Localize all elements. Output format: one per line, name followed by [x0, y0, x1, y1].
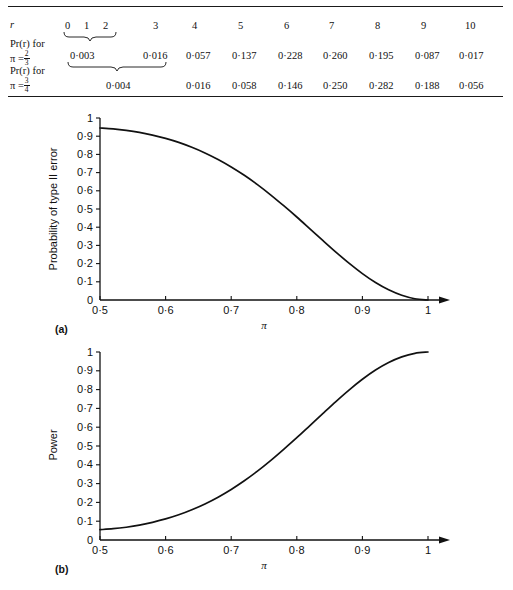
x-axis-arrow-icon — [439, 296, 450, 303]
x-tick-label-3: 0·8 — [289, 544, 305, 556]
y-tick-label-7: 0·7 — [77, 166, 93, 178]
x-tick-label-0: 0·5 — [92, 544, 108, 556]
y-tick-label-2: 0·2 — [77, 496, 93, 508]
table-braces — [0, 0, 513, 100]
y-tick-label-8: 0·8 — [77, 383, 93, 395]
underbrace-0-2 — [64, 32, 116, 41]
y-tick-label-9: 0·9 — [77, 130, 93, 142]
y-tick-label-2: 0·2 — [77, 257, 93, 269]
x-tick-label-3: 0·8 — [289, 304, 305, 316]
y-tick-label-10: 1 — [87, 346, 93, 358]
x-axis-title: π — [261, 559, 267, 571]
y-tick-label-8: 0·8 — [77, 148, 93, 160]
data-curve — [100, 352, 428, 530]
x-tick-label-5: 1 — [425, 544, 431, 556]
x-tick-label-4: 0·9 — [354, 304, 370, 316]
panel-label-a: (a) — [55, 323, 68, 335]
x-tick-label-1: 0·6 — [158, 304, 174, 316]
y-axis-title: Power — [47, 429, 59, 461]
y-tick-label-4: 0·4 — [77, 221, 93, 233]
x-tick-label-0: 0·5 — [92, 304, 108, 316]
x-tick-label-2: 0·7 — [223, 544, 239, 556]
x-axis-title: π — [261, 319, 267, 331]
chart-panel-b: 00·10·20·30·40·50·60·70·80·910·50·60·70·… — [0, 345, 513, 590]
x-tick-label-2: 0·7 — [223, 304, 239, 316]
chart-b-svg: 00·10·20·30·40·50·60·70·80·910·50·60·70·… — [0, 345, 513, 590]
chart-panel-a: 00·10·20·30·40·50·60·70·80·910·50·60·70·… — [0, 105, 513, 345]
y-tick-label-1: 0·1 — [77, 515, 93, 527]
panel-label-b: (b) — [55, 563, 68, 575]
x-axis-arrow-icon — [439, 536, 450, 543]
y-tick-label-1: 0·1 — [77, 275, 93, 287]
y-tick-label-5: 0·5 — [77, 203, 93, 215]
y-tick-label-5: 0·5 — [77, 440, 93, 452]
probability-table: r Pr(r) for π =23 Pr(r) for π =34 0 1 2 … — [0, 0, 513, 100]
x-tick-label-4: 0·9 — [354, 544, 370, 556]
x-tick-label-1: 0·6 — [158, 544, 174, 556]
data-curve — [100, 128, 428, 300]
underbrace-0-3 — [68, 62, 166, 71]
y-tick-label-3: 0·3 — [77, 477, 93, 489]
y-tick-label-4: 0·4 — [77, 458, 93, 470]
y-tick-label-6: 0·6 — [77, 184, 93, 196]
x-tick-label-5: 1 — [425, 304, 431, 316]
chart-a-svg: 00·10·20·30·40·50·60·70·80·910·50·60·70·… — [0, 105, 513, 345]
y-tick-label-7: 0·7 — [77, 402, 93, 414]
y-axis-title: Probability of type II error — [47, 147, 59, 270]
y-tick-label-9: 0·9 — [77, 364, 93, 376]
y-tick-label-10: 1 — [87, 112, 93, 124]
y-tick-label-6: 0·6 — [77, 421, 93, 433]
y-tick-label-3: 0·3 — [77, 239, 93, 251]
